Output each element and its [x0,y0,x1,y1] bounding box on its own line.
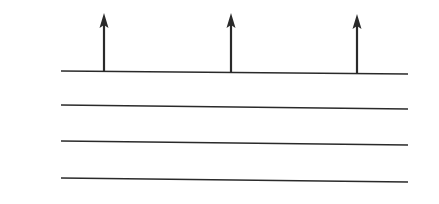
up-arrow-icon [353,14,362,74]
horizontal-line-4 [61,178,408,182]
diagram-canvas [0,0,439,204]
parallel-lines-diagram [0,0,439,204]
up-arrow-icon [227,13,236,73]
horizontal-line-2 [61,105,408,109]
horizontal-line-3 [61,141,408,145]
up-arrow-icon [100,13,109,72]
